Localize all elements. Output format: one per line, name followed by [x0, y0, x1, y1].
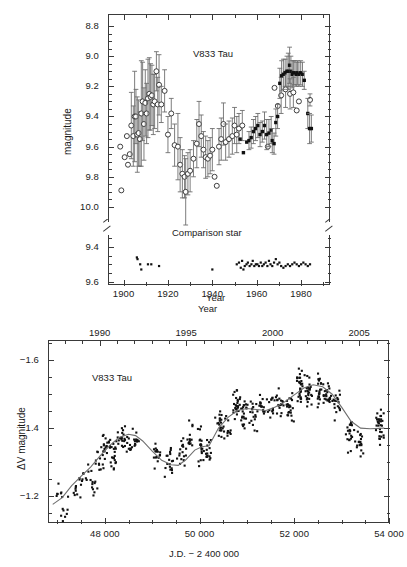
data-point — [272, 412, 274, 414]
axis-tick-label: 9.6 — [85, 276, 99, 287]
axis-tick — [81, 520, 82, 524]
data-point-open-circle — [208, 153, 213, 158]
axis-tick — [301, 280, 302, 286]
data-point — [90, 479, 92, 481]
axis-tick — [48, 394, 52, 395]
data-point — [380, 409, 382, 411]
data-point — [383, 412, 385, 414]
data-point — [304, 374, 306, 376]
data-point — [95, 463, 97, 465]
data-point — [81, 480, 83, 482]
data-point — [308, 398, 310, 400]
data-point — [236, 408, 238, 410]
axis-tick — [328, 139, 332, 140]
data-point — [259, 394, 261, 396]
data-point — [297, 400, 299, 402]
axis-tick — [235, 14, 236, 18]
comparison-data-point — [258, 265, 260, 267]
axis-tick — [169, 340, 170, 344]
data-point — [339, 394, 341, 396]
data-point — [334, 419, 336, 421]
data-point — [319, 398, 321, 400]
data-point — [383, 437, 385, 439]
comparison-data-point — [296, 263, 298, 265]
data-point-filled — [303, 79, 306, 82]
data-point — [244, 427, 246, 429]
data-point — [241, 416, 243, 418]
data-point-open-circle — [169, 111, 174, 116]
data-point — [262, 398, 264, 400]
data-point — [229, 431, 231, 433]
data-point-filled — [261, 130, 264, 133]
axis-tick — [325, 282, 331, 283]
data-point-filled — [263, 124, 266, 127]
data-point — [200, 459, 202, 461]
axis-tick-label: 2005 — [348, 327, 370, 338]
data-point — [185, 448, 187, 450]
data-point-open-circle — [214, 183, 219, 188]
data-point — [169, 453, 171, 455]
data-point — [57, 493, 59, 495]
axis-tick — [307, 340, 308, 344]
axis-tick — [384, 360, 390, 361]
data-point — [330, 395, 332, 397]
data-point — [220, 419, 222, 421]
data-point — [328, 385, 330, 387]
data-point — [334, 400, 336, 402]
axis-tick-label: 9.6 — [85, 141, 99, 152]
data-point — [191, 444, 193, 446]
data-point-open-circle — [217, 144, 222, 149]
data-point — [308, 388, 310, 390]
data-point — [298, 368, 300, 370]
comparison-data-point — [241, 260, 243, 262]
axis-tick — [328, 49, 332, 50]
data-point — [198, 465, 200, 467]
data-point — [293, 420, 295, 422]
data-point — [129, 449, 131, 451]
data-point — [167, 455, 169, 457]
axis-tick — [389, 518, 390, 524]
data-point — [133, 439, 135, 441]
data-point — [223, 437, 225, 439]
axis-tick — [48, 479, 52, 480]
axis-tick — [328, 184, 332, 185]
data-point — [256, 430, 258, 432]
axis-tick — [342, 520, 343, 524]
data-point — [108, 441, 110, 443]
axis-tick — [168, 280, 169, 286]
data-point — [92, 481, 94, 483]
data-point-open-circle — [191, 156, 196, 161]
data-point — [291, 392, 293, 394]
data-point — [375, 429, 377, 431]
data-point — [276, 399, 278, 401]
data-point-filled — [278, 82, 281, 85]
data-point — [153, 448, 155, 450]
comparison-data-point — [140, 268, 142, 270]
comparison-data-point — [211, 268, 213, 270]
data-point-open-circle — [124, 134, 129, 139]
comparison-data-point — [250, 263, 252, 265]
axis-tick — [325, 207, 331, 208]
data-point — [220, 436, 222, 438]
axis-tick — [257, 280, 258, 286]
data-point — [298, 377, 300, 379]
data-point — [186, 439, 188, 441]
axis-tick — [238, 340, 239, 344]
axis-tick — [152, 340, 153, 344]
data-point — [225, 415, 227, 417]
data-point — [179, 448, 181, 450]
axis-tick — [108, 64, 112, 65]
data-point — [315, 390, 317, 392]
comparison-data-point — [158, 265, 160, 267]
data-point — [236, 389, 238, 391]
data-point — [227, 432, 229, 434]
data-point — [206, 452, 208, 454]
data-point — [243, 423, 245, 425]
axis-tick — [235, 282, 236, 286]
data-point-open-circle — [194, 141, 199, 146]
data-point — [124, 439, 126, 441]
data-point-open-circle — [272, 85, 277, 90]
data-point — [76, 493, 78, 495]
data-point — [306, 398, 308, 400]
data-point — [206, 449, 208, 451]
